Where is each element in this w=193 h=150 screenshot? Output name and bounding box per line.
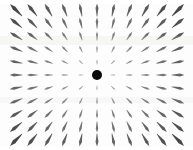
field-arrow: [141, 98, 150, 104]
field-arrow: [126, 60, 133, 64]
field-arrow: [62, 110, 68, 119]
field-arrow: [172, 32, 185, 40]
field-arrow: [27, 18, 37, 28]
field-arrow: [111, 86, 115, 90]
field-arrow: [45, 18, 53, 28]
field-arrow: [127, 4, 132, 17]
field-arrow: [45, 4, 53, 17]
field-arrow: [79, 86, 83, 90]
field-arrow: [62, 32, 68, 41]
field-arrow: [96, 18, 98, 29]
field-arrow: [156, 110, 166, 118]
field-arrow: [126, 46, 132, 52]
field-arrow: [126, 86, 133, 90]
field-arrow: [62, 46, 68, 52]
field-arrow: [112, 18, 115, 29]
field-arrow: [126, 110, 132, 119]
field-arrow: [27, 60, 38, 63]
field-arrow: [45, 122, 53, 132]
field-arrow: [156, 46, 167, 52]
field-arrow: [172, 122, 184, 132]
field-arrow: [27, 86, 38, 89]
field-arrow: [27, 74, 38, 76]
field-arrow: [172, 74, 185, 77]
field-arrow: [79, 134, 82, 147]
field-arrow: [141, 110, 149, 118]
field-arrow: [157, 122, 167, 132]
field-arrow: [111, 60, 115, 64]
field-arrow: [172, 18, 184, 28]
field-arrow: [126, 74, 133, 76]
field-arrow: [156, 74, 167, 76]
field-arrow: [27, 110, 37, 118]
field-arrow: [44, 110, 52, 118]
field-arrow: [172, 86, 185, 89]
field-arrow: [78, 74, 83, 75]
field-arrow: [27, 46, 38, 52]
field-arrow: [44, 61, 53, 64]
field-arrow: [62, 4, 67, 17]
field-arrow: [111, 32, 114, 41]
field-arrow: [44, 32, 52, 40]
field-arrow: [111, 46, 115, 53]
field-arrow: [10, 86, 23, 89]
field-arrow: [62, 98, 68, 104]
field-arrow: [111, 98, 115, 105]
field-arrow: [142, 18, 150, 28]
field-arrow: [96, 134, 99, 147]
field-arrow: [96, 32, 98, 41]
field-arrow: [62, 122, 68, 133]
field-arrow: [10, 18, 22, 28]
field-arrow: [112, 4, 115, 17]
field-arrow: [96, 86, 97, 91]
field-arrow: [10, 98, 23, 103]
field-arrow: [10, 46, 23, 51]
field-arrow: [61, 86, 68, 90]
vector-field-plot: [0, 0, 193, 150]
field-arrow: [10, 32, 23, 40]
field-arrow: [96, 122, 98, 133]
field-arrow: [79, 46, 83, 53]
field-arrow: [126, 98, 132, 104]
field-arrow: [126, 32, 132, 41]
field-arrow: [112, 134, 115, 147]
field-arrow: [10, 134, 22, 146]
field-arrow: [142, 122, 150, 132]
field-arrow: [172, 46, 185, 51]
field-arrow: [96, 110, 98, 119]
field-arrow: [156, 32, 166, 40]
field-arrow: [142, 134, 150, 147]
field-arrow: [45, 134, 53, 147]
field-arrow: [127, 134, 132, 147]
field-arrow: [79, 32, 82, 41]
field-arrow: [172, 98, 185, 103]
field-arrow: [44, 98, 53, 104]
field-arrow: [156, 60, 167, 63]
field-arrow: [172, 134, 184, 146]
field-arrow: [44, 46, 53, 52]
field-arrow: [142, 4, 150, 17]
field-arrow: [127, 18, 133, 29]
field-arrow: [96, 46, 98, 53]
field-arrow: [96, 4, 99, 17]
field-arrow: [10, 122, 22, 132]
field-arrow: [141, 61, 150, 64]
field-arrow: [172, 4, 184, 16]
field-arrow: [79, 110, 82, 119]
field-arrow: [79, 60, 83, 64]
field-arrow: [112, 122, 115, 133]
field-arrow: [141, 74, 150, 76]
center-point-marker: [92, 70, 102, 80]
field-arrow: [10, 74, 23, 77]
field-arrow: [44, 74, 53, 76]
field-arrow: [172, 110, 185, 118]
field-arrow: [62, 134, 67, 147]
field-arrow: [96, 60, 97, 65]
field-arrow: [27, 4, 37, 16]
field-arrow: [10, 110, 23, 118]
field-arrow: [111, 110, 114, 119]
field-arrow: [61, 60, 68, 64]
field-arrow: [157, 4, 167, 16]
field-arrow: [79, 4, 82, 17]
field-arrow: [141, 32, 149, 40]
